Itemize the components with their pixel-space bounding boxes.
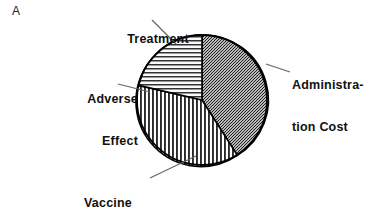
slice-label-administration-cost-line2: tion Cost — [292, 120, 387, 134]
figure-panel-a: A — [0, 0, 389, 215]
slice-label-adverse-effect: Adverse Effect — [36, 64, 138, 176]
leader-line-administration-cost — [266, 64, 290, 72]
slice-label-vaccine-delivery: Vaccine Delivery — [84, 168, 192, 215]
slice-label-administration-cost: Administra- tion Cost — [292, 50, 387, 162]
slice-label-administration-cost-line1: Administra- — [292, 78, 387, 92]
slice-label-adverse-effect-line2: Effect — [36, 134, 138, 148]
slice-label-treatment-line1: Treatment — [100, 32, 216, 46]
slice-label-vaccine-delivery-line1: Vaccine — [84, 196, 192, 210]
slice-label-adverse-effect-line1: Adverse — [36, 92, 138, 106]
